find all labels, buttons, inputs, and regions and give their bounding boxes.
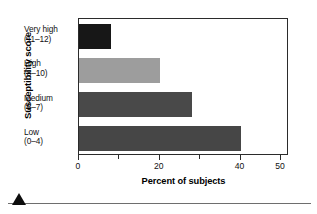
x-axis-tick [280,155,281,160]
plot-area [78,18,288,155]
x-axis-tick [240,155,241,160]
bar [79,126,241,151]
x-axis-tick-label: 40 [235,161,245,171]
triangle-marker-icon [12,193,26,205]
y-axis-tick-label: Very high(11–12) [24,25,76,44]
x-axis-tick-labels: 0204050 [0,161,317,175]
y-axis-tick-labels: Very high(11–12)High(8–10)Medium(5–7)Low… [24,18,76,155]
y-axis-tick-label: High(8–10) [24,59,76,78]
x-axis-tick [199,155,200,159]
bar [79,58,160,83]
x-axis-tick-label: 0 [76,161,81,171]
y-axis-tick-label: Low(0–4) [24,128,76,147]
bar [79,24,111,49]
y-tick-label-line2: (11–12) [24,35,76,45]
bar [79,92,192,117]
y-axis-tick-label: Medium(5–7) [24,94,76,113]
x-axis-tick [118,155,119,159]
x-axis-tick [159,155,160,160]
bar-series [79,19,287,154]
y-tick-label-line2: (0–4) [24,137,76,147]
x-axis-title: Percent of subjects [78,176,289,186]
x-axis-tick-label: 20 [154,161,164,171]
x-axis-tick [78,155,79,160]
bar-chart-figure: Susceptibility score Very high(11–12)Hig… [0,0,317,214]
y-tick-label-line2: (8–10) [24,69,76,79]
x-axis-tick-label: 50 [275,161,285,171]
y-tick-label-line2: (5–7) [24,103,76,113]
footer-rule [8,203,311,204]
